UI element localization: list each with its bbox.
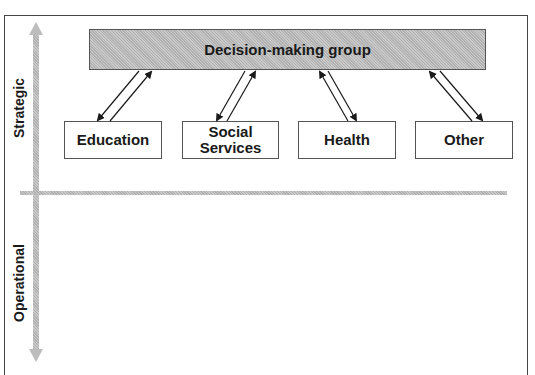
arrow-down-other xyxy=(440,71,482,120)
arrow-down-education xyxy=(98,71,139,120)
arrow-up-other xyxy=(430,72,472,121)
arrow-down-social-services xyxy=(217,71,245,120)
arrow-up-education xyxy=(110,72,151,121)
arrow-up-health xyxy=(320,72,348,121)
arrow-up-social-services xyxy=(227,72,255,121)
arrow-down-health xyxy=(328,71,356,120)
